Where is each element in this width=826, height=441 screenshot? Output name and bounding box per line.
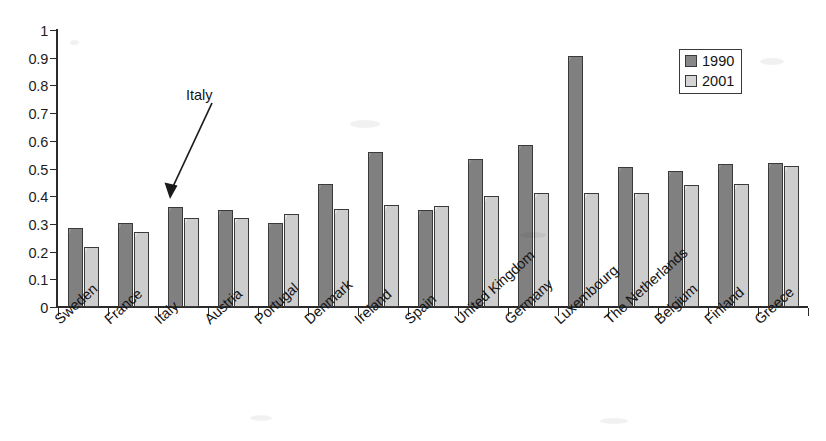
bar xyxy=(618,167,633,307)
bar-group xyxy=(758,30,808,307)
y-tick-label: 0.2 xyxy=(4,246,48,261)
y-tick-label: 0.8 xyxy=(4,79,48,94)
y-tick-label: 0.6 xyxy=(4,135,48,150)
scan-artifact xyxy=(350,120,380,128)
bar-group xyxy=(58,30,108,307)
scan-artifact xyxy=(250,415,272,421)
y-tick-label: 0.1 xyxy=(4,273,48,288)
bar xyxy=(184,218,199,307)
scan-artifact xyxy=(600,418,628,424)
y-tick-label: 0.3 xyxy=(4,218,48,233)
scan-artifact xyxy=(70,40,79,45)
legend-swatch-2001-icon xyxy=(685,75,697,87)
legend-label: 1990 xyxy=(702,54,734,69)
x-axis-labels: SwedenFranceItalyAustriaPortugalDenmarkI… xyxy=(0,308,826,441)
legend-label: 2001 xyxy=(702,74,734,89)
bar-group xyxy=(458,30,508,307)
y-tick-label: 0.7 xyxy=(4,107,48,122)
bar xyxy=(668,171,683,307)
bar-chart: 1 0.9 0.8 0.7 0.6 0.5 0.4 0.3 0.2 0.1 0 … xyxy=(0,0,826,441)
bar xyxy=(468,159,483,307)
bar xyxy=(718,164,733,307)
bar-group xyxy=(408,30,458,307)
bar xyxy=(168,207,183,307)
scan-artifact xyxy=(520,232,546,238)
legend-item: 2001 xyxy=(685,74,734,89)
scan-artifact xyxy=(760,58,784,65)
legend: 1990 2001 xyxy=(679,49,742,94)
bar xyxy=(568,56,583,307)
annotation-arrow-icon xyxy=(150,95,270,215)
bar xyxy=(518,145,533,307)
bar-group xyxy=(558,30,608,307)
y-tick-label: 1 xyxy=(4,24,48,39)
y-tick-label: 0.5 xyxy=(4,163,48,178)
bar-group xyxy=(308,30,358,307)
legend-swatch-1990-icon xyxy=(685,55,697,67)
bar-group xyxy=(358,30,408,307)
y-tick-label: 0.4 xyxy=(4,190,48,205)
bar xyxy=(768,163,783,307)
bar xyxy=(368,152,383,307)
bar xyxy=(434,206,449,307)
bar-group xyxy=(608,30,658,307)
y-tick-label: 0.9 xyxy=(4,52,48,67)
legend-item: 1990 xyxy=(685,54,734,69)
